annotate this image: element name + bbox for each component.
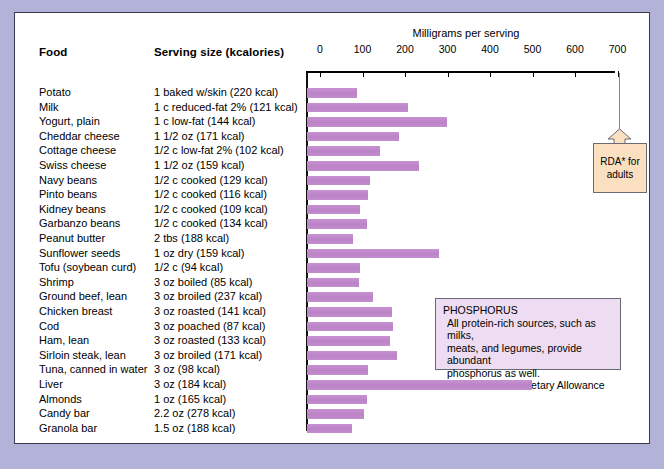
row-serving-size: 1 oz (165 kcal): [154, 393, 226, 405]
axis-tick-label: 100: [354, 43, 372, 55]
table-row: Ground beef, lean3 oz broiled (237 kcal): [15, 289, 649, 304]
table-row: Candy bar2.2 oz (278 kcal): [15, 406, 649, 421]
table-row: Liver3 oz (184 kcal): [15, 377, 649, 392]
row-serving-size: 1/2 c cooked (129 kcal): [154, 174, 268, 186]
table-row: Cheddar cheese1 1/2 oz (171 kcal): [15, 129, 649, 144]
row-serving-size: 3 oz broiled (237 kcal): [154, 290, 262, 302]
table-row: Milk1 c reduced-fat 2% (121 kcal): [15, 100, 649, 115]
table-row: Cottage cheese1/2 c low-fat 2% (102 kcal…: [15, 143, 649, 158]
row-food-name: Garbanzo beans: [39, 217, 120, 229]
axis-tick-label: 200: [396, 43, 414, 55]
row-serving-size: 1 c low-fat (144 kcal): [154, 115, 255, 127]
table-row: Shrimp3 oz boiled (85 kcal): [15, 275, 649, 290]
table-row: Almonds1 oz (165 kcal): [15, 392, 649, 407]
row-serving-size: 1 1/2 oz (159 kcal): [154, 159, 245, 171]
row-serving-size: 3 oz (98 kcal): [154, 363, 220, 375]
table-row: Navy beans1/2 c cooked (129 kcal): [15, 173, 649, 188]
axis-tick-mark: [448, 71, 449, 77]
row-serving-size: 2.2 oz (278 kcal): [154, 407, 235, 419]
row-serving-size: 1/2 c low-fat 2% (102 kcal): [154, 144, 284, 156]
table-row: Yogurt, plain1 c low-fat (144 kcal): [15, 114, 649, 129]
row-food-name: Yogurt, plain: [39, 115, 100, 127]
row-food-name: Peanut butter: [39, 232, 105, 244]
row-food-name: Tuna, canned in water: [39, 363, 147, 375]
axis-tick-label: 500: [524, 43, 542, 55]
row-food-name: Sirloin steak, lean: [39, 349, 126, 361]
table-row: Chicken breast3 oz roasted (141 kcal): [15, 304, 649, 319]
row-bar: [307, 132, 399, 142]
row-serving-size: 3 oz roasted (133 kcal): [154, 334, 266, 346]
axis-tick-mark: [363, 71, 364, 77]
row-bar: [307, 88, 357, 98]
row-serving-size: 2 tbs (188 kcal): [154, 232, 229, 244]
axis-tick-mark: [490, 71, 491, 77]
row-serving-size: 1.5 oz (188 kcal): [154, 422, 235, 434]
row-bar: [307, 234, 353, 244]
row-food-name: Shrimp: [39, 276, 74, 288]
row-food-name: Tofu (soybean curd): [39, 261, 136, 273]
row-bar: [307, 103, 408, 113]
table-row: Granola bar1.5 oz (188 kcal): [15, 421, 649, 436]
row-food-name: Sunflower seeds: [39, 247, 120, 259]
row-bar: [307, 307, 392, 317]
row-food-name: Cottage cheese: [39, 144, 116, 156]
axis-tick-label: 0: [317, 43, 323, 55]
row-bar: [307, 146, 380, 156]
table-row: Potato1 baked w/skin (220 kcal): [15, 85, 649, 100]
x-axis-tick-labels: 0100200300400500600700: [306, 43, 636, 73]
row-bar: [307, 351, 397, 361]
table-row: Pinto beans1/2 c cooked (116 kcal): [15, 187, 649, 202]
row-bar: [307, 190, 368, 200]
row-bar: [307, 336, 390, 346]
table-row: Peanut butter2 tbs (188 kcal): [15, 231, 649, 246]
row-serving-size: 3 oz poached (87 kcal): [154, 320, 265, 332]
table-row: Garbanzo beans1/2 c cooked (134 kcal): [15, 216, 649, 231]
row-serving-size: 1 oz dry (159 kcal): [154, 247, 244, 259]
column-header-food: Food: [39, 46, 68, 58]
table-row: Sirloin steak, lean3 oz broiled (171 kca…: [15, 348, 649, 363]
table-row: Tofu (soybean curd)1/2 c (94 kcal): [15, 260, 649, 275]
row-food-name: Milk: [39, 101, 59, 113]
row-bar: [307, 322, 393, 332]
row-bar: [307, 424, 352, 434]
row-serving-size: 1/2 c cooked (116 kcal): [154, 188, 267, 200]
axis-tick-label: 400: [481, 43, 499, 55]
table-row: Cod3 oz poached (87 kcal): [15, 319, 649, 334]
row-food-name: Swiss cheese: [39, 159, 106, 171]
row-food-name: Cheddar cheese: [39, 130, 120, 142]
row-serving-size: 1 1/2 oz (171 kcal): [154, 130, 245, 142]
row-food-name: Kidney beans: [39, 203, 106, 215]
row-serving-size: 1/2 c (94 kcal): [154, 261, 223, 273]
figure-panel: Food Serving size (kcalories) Milligrams…: [14, 12, 650, 444]
row-food-name: Liver: [39, 378, 63, 390]
table-row: Kidney beans1/2 c cooked (109 kcal): [15, 202, 649, 217]
axis-tick-label: 300: [439, 43, 457, 55]
column-header-serving: Serving size (kcalories): [154, 46, 284, 58]
axis-tick-label: 600: [566, 43, 584, 55]
row-food-name: Almonds: [39, 393, 82, 405]
row-serving-size: 3 oz boiled (85 kcal): [154, 276, 252, 288]
row-food-name: Ham, lean: [39, 334, 89, 346]
row-bar: [307, 380, 532, 390]
row-food-name: Candy bar: [39, 407, 90, 419]
row-food-name: Navy beans: [39, 174, 97, 186]
row-bar: [307, 409, 364, 419]
row-bar: [307, 278, 359, 288]
row-bar: [307, 161, 419, 171]
row-serving-size: 1 baked w/skin (220 kcal): [154, 86, 278, 98]
table-row: Sunflower seeds1 oz dry (159 kcal): [15, 246, 649, 261]
row-food-name: Cod: [39, 320, 59, 332]
row-food-name: Pinto beans: [39, 188, 97, 200]
row-bar: [307, 219, 367, 229]
axis-tick-mark: [320, 71, 321, 77]
row-food-name: Ground beef, lean: [39, 290, 127, 302]
row-serving-size: 1 c reduced-fat 2% (121 kcal): [154, 101, 298, 113]
row-bar: [307, 176, 370, 186]
row-bar: [307, 395, 367, 405]
row-bar: [307, 365, 368, 375]
row-bar: [307, 249, 439, 259]
row-bar: [307, 263, 360, 273]
axis-tick-mark: [575, 71, 576, 77]
row-food-name: Potato: [39, 86, 71, 98]
row-bar: [307, 205, 360, 215]
